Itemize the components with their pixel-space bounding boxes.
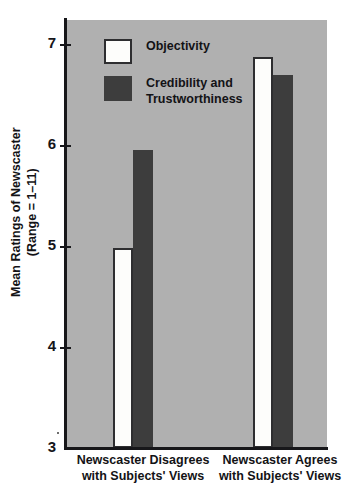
bar-credibility-agrees [273, 75, 293, 448]
bar-objectivity-agrees [253, 57, 273, 448]
y-tick-label-4: 4 [22, 338, 56, 353]
legend-label-objectivity: Objectivity [146, 38, 210, 54]
bar-objectivity-disagrees [113, 248, 133, 448]
x-category-label-agrees: Newscaster Agrees with Subjects' Views [212, 452, 348, 484]
legend-label-credibility: Credibility and Trustworthiness [146, 75, 243, 107]
y-tick-label-7: 7 [22, 35, 56, 50]
y-axis-title: Mean Ratings of Newscaster (Range = 1–11… [8, 112, 41, 312]
bar-credibility-disagrees [133, 150, 153, 448]
legend-item-credibility: Credibility and Trustworthiness [104, 75, 243, 107]
legend: Objectivity Credibility and Trustworthin… [104, 38, 243, 118]
axis-speck [57, 432, 59, 434]
legend-swatch-credibility [104, 76, 132, 101]
y-tick-label-3: 3 [22, 439, 56, 454]
x-axis-line [64, 447, 328, 450]
y-axis-line [64, 18, 67, 450]
legend-swatch-objectivity [104, 39, 132, 64]
legend-item-objectivity: Objectivity [104, 38, 243, 64]
x-category-label-disagrees: Newscaster Disagrees with Subjects' View… [72, 452, 214, 484]
